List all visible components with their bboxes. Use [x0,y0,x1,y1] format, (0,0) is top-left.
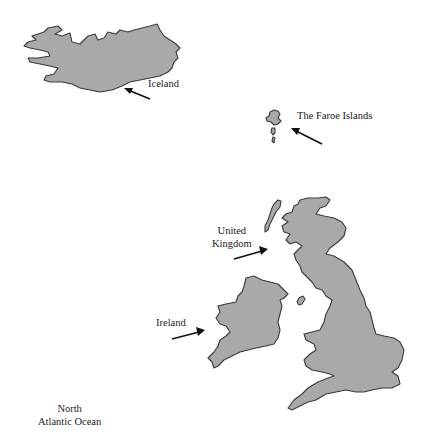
ireland-label: Ireland [156,317,186,330]
faroe-islands [266,110,281,143]
iceland-arrow [124,88,150,99]
faroe-islands-label: The Faroe Islands [297,110,372,123]
united-kingdom-label-line1: United [212,225,252,238]
ocean-label-line1: North [38,403,101,416]
faroe-arrow [291,128,322,144]
outer-hebrides [265,200,281,232]
ocean-label-line2: Atlantic Ocean [38,416,101,429]
united-kingdom-label: United Kingdom [212,225,252,250]
isle-of-man [297,296,305,305]
ireland-landmass [208,276,288,368]
ocean-label: North Atlantic Ocean [38,403,101,428]
united-kingdom-label-line2: Kingdom [212,238,252,251]
iceland-label: Iceland [148,78,179,91]
map-canvas [0,0,425,444]
